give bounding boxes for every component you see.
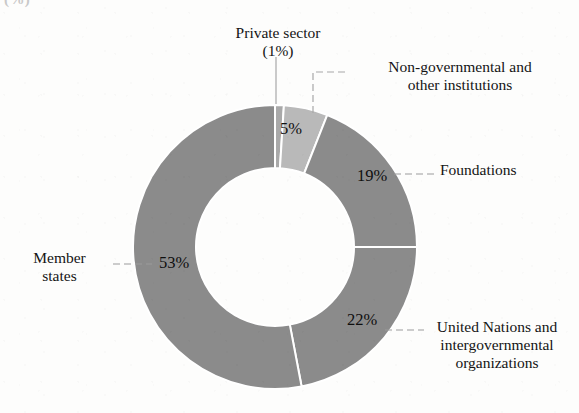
- chart-page: (%) Private sector (1%) Non-governmental…: [0, 0, 579, 413]
- slice-value-united-nations: 22%: [347, 310, 377, 330]
- slice-label-private-sector: Private sector (1%): [203, 6, 353, 78]
- slice-label-private-sector-text: Private sector: [236, 24, 321, 41]
- slice-label-private-sector-value: (1%): [203, 42, 353, 60]
- slice-label-member-states: Member states: [8, 249, 111, 285]
- donut-slices: [133, 105, 417, 389]
- leader-line-ngo: [313, 72, 345, 115]
- slice-label-ngo: Non-governmental and other institutions: [345, 58, 575, 94]
- slice-value-member-states: 53%: [159, 253, 189, 273]
- slice-label-foundations: Foundations: [440, 161, 575, 179]
- slice-value-ngo: 5%: [280, 119, 302, 139]
- slice-label-united-nations: United Nations and intergovernmental org…: [418, 318, 576, 372]
- slice-value-foundations: 19%: [357, 166, 387, 186]
